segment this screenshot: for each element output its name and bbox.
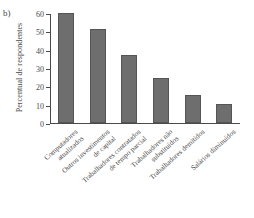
- panel-label: b): [3, 8, 11, 18]
- y-tick-label: 40: [36, 46, 44, 55]
- y-axis-label: Percentual de respondentes: [15, 10, 24, 125]
- bar: [185, 95, 201, 123]
- y-tick-mark: [46, 32, 50, 33]
- y-tick-mark: [46, 14, 50, 15]
- bar: [58, 13, 74, 123]
- bar: [121, 55, 137, 123]
- y-tick-mark: [46, 106, 50, 107]
- y-tick-label: 60: [36, 10, 44, 19]
- plot-area: 0102030405060: [50, 14, 240, 124]
- y-tick-mark: [46, 87, 50, 88]
- bar: [90, 29, 106, 123]
- y-tick-mark: [46, 124, 50, 125]
- bar-chart-figure: b) Percentual de respondentes 0102030405…: [0, 0, 254, 218]
- y-tick-label: 30: [36, 65, 44, 74]
- bar: [216, 104, 232, 123]
- bar: [153, 78, 169, 123]
- y-tick-label: 20: [36, 83, 44, 92]
- y-tick-mark: [46, 51, 50, 52]
- x-axis-line: [50, 123, 240, 124]
- y-tick-label: 10: [36, 101, 44, 110]
- y-axis-line: [50, 14, 51, 124]
- y-tick-mark: [46, 69, 50, 70]
- y-tick-label: 0: [40, 120, 44, 129]
- y-tick-label: 50: [36, 28, 44, 37]
